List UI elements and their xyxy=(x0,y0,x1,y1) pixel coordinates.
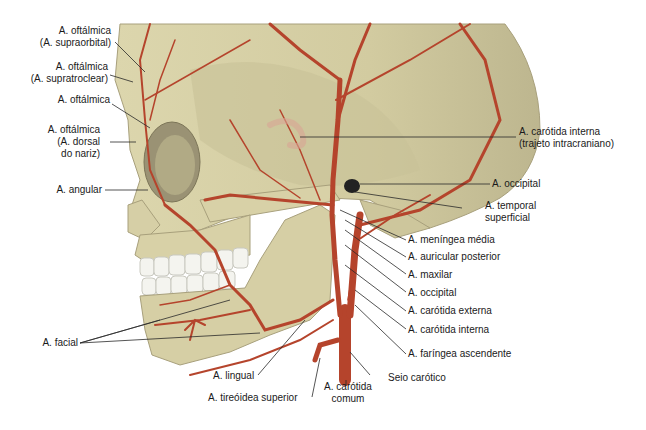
label-angular: A. angular xyxy=(56,184,102,196)
label-carotida-interna-intracraniano: A. carótida interna (trajeto intracrania… xyxy=(519,126,614,150)
label-carotida-interna: A. carótida interna xyxy=(408,324,489,336)
label-lingual: A. lingual xyxy=(213,370,254,382)
label-seio-carotico: Seio carótico xyxy=(388,372,446,384)
label-temporal-superficial: A. temporal superficial xyxy=(485,200,536,224)
label-maxilar: A. maxilar xyxy=(408,269,452,281)
label-carotida-externa: A. carótida externa xyxy=(408,305,492,317)
anatomy-figure: A. oftálmica (A. supraorbital) A. oftálm… xyxy=(0,0,646,430)
label-oftalmica-supraorbital: A. oftálmica (A. supraorbital) xyxy=(40,25,111,49)
label-tireoidea-superior: A. tireóidea superior xyxy=(208,392,298,404)
label-oftalmica-supratroclear: A. oftálmica (A. supratroclear) xyxy=(31,61,108,85)
label-oftalmica: A. oftálmica xyxy=(58,94,110,106)
label-carotida-comum: A. carótida comum xyxy=(320,381,376,405)
label-meningea-media: A. meníngea média xyxy=(408,234,495,246)
label-facial: A. facial xyxy=(42,337,78,349)
external-acoustic-meatus xyxy=(344,179,360,193)
label-oftalmica-dorsal-nariz: A. oftálmica (A. dorsal do nariz) xyxy=(48,124,100,160)
label-faringea-ascendente: A. faríngea ascendente xyxy=(408,348,511,360)
label-occipital-lower: A. occipital xyxy=(408,287,456,299)
label-occipital-upper: A. occipital xyxy=(492,178,540,190)
label-auricular-posterior: A. auricular posterior xyxy=(408,251,500,263)
